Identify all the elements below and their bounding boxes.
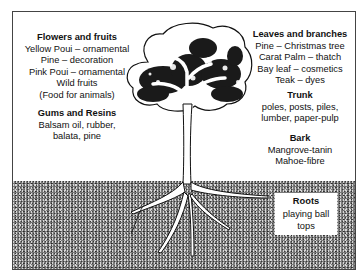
- gums-resins-label: Gums and Resins Balsam oil, rubber, bala…: [15, 108, 139, 143]
- gums-resins-title: Gums and Resins: [15, 108, 139, 120]
- roots-line: tops: [279, 220, 333, 233]
- roots-label: Roots playing ball tops: [275, 193, 337, 235]
- roots-line: playing ball: [279, 208, 333, 221]
- bark-title: Bark: [245, 133, 355, 145]
- trunk-line: poles, posts, piles,: [245, 102, 355, 114]
- leaves-branches-line: Teak – dyes: [245, 75, 355, 87]
- flowers-fruits-line: (Food for animals): [15, 90, 139, 102]
- flowers-fruits-line: Wild fruits: [15, 78, 139, 90]
- trunk-line: lumber, paper-pulp: [245, 113, 355, 125]
- leaves-branches-line: Pine – Christmas tree: [245, 41, 355, 53]
- flowers-fruits-label: Flowers and fruits Yellow Poui – ornamen…: [15, 32, 139, 101]
- flowers-fruits-line: Pine – decoration: [15, 55, 139, 67]
- flowers-fruits-line: Yellow Poui – ornamental: [15, 44, 139, 56]
- roots-title: Roots: [279, 195, 333, 208]
- bark-line: Mangrove-tanin: [245, 145, 355, 157]
- leaves-branches-line: Carat Palm – thatch: [245, 52, 355, 64]
- gums-resins-line: Balsam oil, rubber,: [15, 120, 139, 132]
- gums-resins-line: balata, pine: [15, 131, 139, 143]
- bark-label: Bark Mangrove-tanin Mahoe-fibre: [245, 133, 355, 168]
- flowers-fruits-line: Pink Poui – ornamental: [15, 67, 139, 79]
- flowers-fruits-title: Flowers and fruits: [15, 32, 139, 44]
- bark-line: Mahoe-fibre: [245, 156, 355, 168]
- trunk-label: Trunk poles, posts, piles, lumber, paper…: [245, 90, 355, 125]
- trunk-title: Trunk: [245, 90, 355, 102]
- diagram-frame: Flowers and fruits Yellow Poui – ornamen…: [12, 11, 356, 270]
- leaves-branches-label: Leaves and branches Pine – Christmas tre…: [245, 29, 355, 87]
- leaves-branches-line: Bay leaf – cosmetics: [245, 64, 355, 76]
- leaves-branches-title: Leaves and branches: [245, 29, 355, 41]
